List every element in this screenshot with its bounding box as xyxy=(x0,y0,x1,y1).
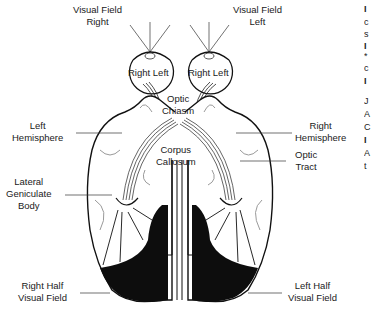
label-visual-field-right: Visual FieldRight xyxy=(73,4,122,28)
edge-fragment: c xyxy=(364,63,373,73)
edge-fragment: t xyxy=(364,161,373,171)
label-right-hemisphere: RightHemisphere xyxy=(295,120,346,144)
visual-pathway-diagram: Visual FieldRight Visual FieldLeft Right… xyxy=(0,0,373,310)
label-lateral-geniculate-body: LateralGeniculateBody xyxy=(6,176,51,212)
label-left-eye-retina: Right Left xyxy=(128,67,169,79)
label-optic-tract: OpticTract xyxy=(295,149,317,173)
edge-fragment: A xyxy=(364,148,373,158)
edge-fragment: A xyxy=(364,109,373,119)
edge-fragment: I xyxy=(364,41,373,51)
label-optic-chiasm: OpticChiasm xyxy=(162,93,194,117)
label-left-half-visual-field: Left HalfVisual Field xyxy=(288,280,337,304)
edge-fragment: J xyxy=(364,96,373,106)
label-visual-field-left: Visual FieldLeft xyxy=(233,4,282,28)
edge-fragment: C xyxy=(364,122,373,132)
label-corpus-callosum: CorpusCallosum xyxy=(156,144,196,168)
edge-fragment: * xyxy=(364,51,373,61)
edge-fragment: c xyxy=(364,17,373,27)
edge-fragment: I xyxy=(364,135,373,145)
edge-fragment: I xyxy=(364,4,373,14)
label-right-eye-retina: Right Left xyxy=(188,67,229,79)
light-rays xyxy=(130,22,229,52)
edge-fragment: I xyxy=(364,76,373,86)
label-left-hemisphere: LeftHemisphere xyxy=(12,120,63,144)
label-right-half-visual-field: Right HalfVisual Field xyxy=(18,280,67,304)
edge-fragment: s xyxy=(364,29,373,39)
